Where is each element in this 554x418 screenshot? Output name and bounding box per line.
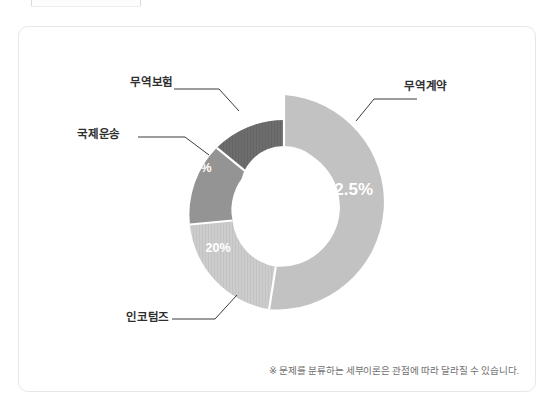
- cropped-top-tab-shadow: [31, 6, 141, 7]
- slice-value-trade-insurance: 12.5%: [229, 96, 264, 110]
- slice-value-intl-transport: 15%: [186, 161, 211, 175]
- chart-card: 52.5% 20% 15% 12.5% 무역계약 무역보험 국제운송 인코텀즈 …: [18, 26, 536, 392]
- category-label-trade-insurance: 무역보험: [130, 73, 173, 89]
- slice-value-incoterms: 20%: [205, 241, 230, 255]
- donut-slice-incoterms[interactable]: [190, 221, 276, 310]
- category-label-incoterms: 인코텀즈: [126, 308, 169, 324]
- slice-value-trade-contract: 52.5%: [325, 180, 373, 199]
- leader-line-intl-transport: [138, 137, 209, 155]
- donut-center-hole: [240, 146, 328, 234]
- donut-chart-svg: 52.5% 20% 15% 12.5%: [19, 27, 537, 347]
- chart-footnote: ※ 문제를 분류하는 세부이론은 관점에 따라 달라질 수 있습니다.: [269, 363, 519, 377]
- category-label-trade-contract: 무역계약: [404, 77, 447, 93]
- category-label-intl-transport: 국제운송: [77, 125, 120, 141]
- donut-chart-area: 52.5% 20% 15% 12.5% 무역계약 무역보험 국제운송 인코텀즈: [19, 27, 537, 347]
- leader-line-incoterms: [172, 295, 237, 319]
- leader-line-trade-contract: [356, 99, 417, 121]
